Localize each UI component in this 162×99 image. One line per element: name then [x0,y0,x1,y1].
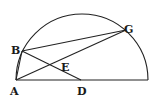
segment-ag [16,30,126,80]
label-g: G [124,23,133,36]
label-b: B [11,44,20,57]
segment-bd [22,51,81,80]
label-d: D [77,85,87,98]
label-e: E [61,61,69,74]
segment-bg [22,30,126,51]
geometry-diagram: A B G D E [0,0,162,99]
label-a: A [9,85,19,98]
